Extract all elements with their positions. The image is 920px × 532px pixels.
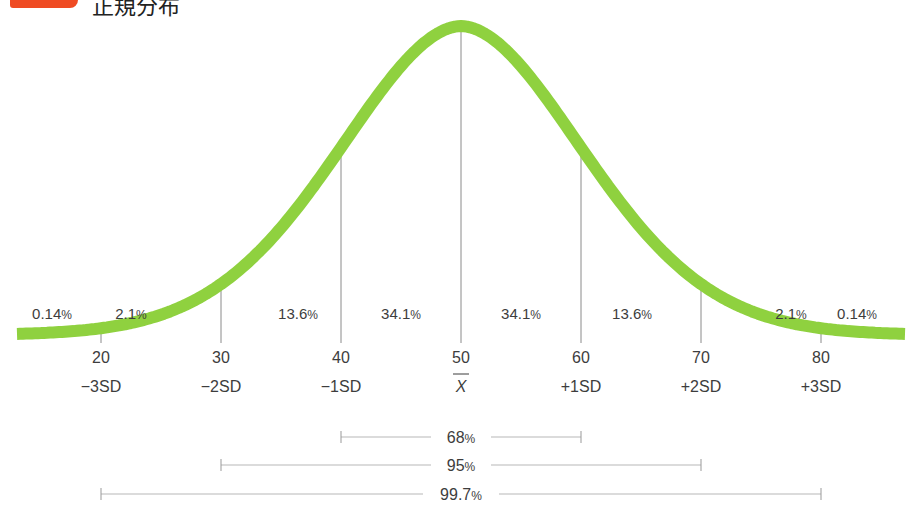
- sd-label: −2SD: [201, 378, 241, 395]
- x-tick-label: 70: [692, 349, 710, 366]
- x-tick-label: 50: [452, 349, 470, 366]
- sd-label: −1SD: [321, 378, 361, 395]
- x-tick-label: 30: [212, 349, 230, 366]
- sd-label: +2SD: [681, 378, 721, 395]
- normal-distribution-chart: 0.14%2.1%13.6%34.1%34.1%13.6%2.1%0.14%20…: [0, 0, 920, 532]
- interval-label: 68%: [447, 429, 476, 446]
- region-label: 34.1%: [501, 305, 541, 322]
- region-label: 13.6%: [278, 305, 318, 322]
- x-tick-label: 40: [332, 349, 350, 366]
- x-tick-label: 20: [92, 349, 110, 366]
- x-tick-label: 60: [572, 349, 590, 366]
- mean-symbol: X: [455, 378, 468, 395]
- sd-label: +1SD: [561, 378, 601, 395]
- sd-label: −3SD: [81, 378, 121, 395]
- interval-label: 99.7%: [440, 486, 482, 503]
- region-label: 13.6%: [612, 305, 652, 322]
- region-label: 0.14%: [837, 305, 877, 322]
- interval-label: 95%: [447, 457, 476, 474]
- region-label: 0.14%: [32, 305, 72, 322]
- sd-label: +3SD: [801, 378, 841, 395]
- region-label: 2.1%: [115, 305, 147, 322]
- x-tick-label: 80: [812, 349, 830, 366]
- region-label: 34.1%: [381, 305, 421, 322]
- region-label: 2.1%: [775, 305, 807, 322]
